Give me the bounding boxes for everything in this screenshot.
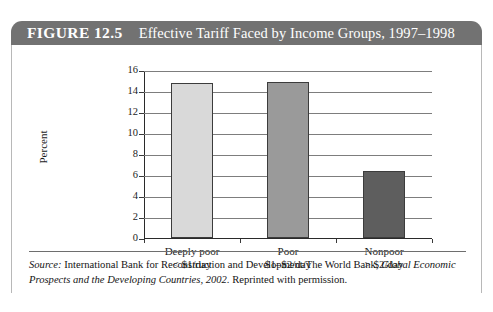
- source-note: Source: International Bank for Reconstru…: [29, 258, 469, 287]
- figure-header-banner: FIGURE 12.5 Effective Tariff Faced by In…: [11, 21, 482, 45]
- bar-chart: Percent 0246810121416 Deeply poor< $1/da…: [12, 45, 483, 250]
- y-tick-label: 10: [112, 127, 138, 138]
- source-text-after: Reprinted with permission.: [230, 274, 348, 285]
- y-tick-mark: [139, 92, 144, 93]
- figure-card: FIGURE 12.5 Effective Tariff Faced by In…: [11, 10, 482, 305]
- y-axis-title: Percent: [37, 97, 49, 197]
- y-tick-label: 12: [112, 106, 138, 117]
- y-tick-label: 6: [112, 169, 138, 180]
- figure-body: Percent 0246810121416 Deeply poor< $1/da…: [11, 45, 482, 293]
- x-tick-mark: [432, 239, 433, 243]
- source-text-before: International Bank for Reconstruction an…: [62, 259, 382, 270]
- bar-deeply-poor: [171, 83, 213, 238]
- y-tick-label: 8: [112, 148, 138, 159]
- x-tick-mark: [240, 239, 241, 243]
- figure-number: FIGURE 12.5: [27, 24, 123, 42]
- gridline: [144, 71, 432, 72]
- source-divider: [29, 251, 466, 252]
- y-tick-mark: [139, 155, 144, 156]
- y-tick-label: 4: [112, 190, 138, 201]
- y-tick-mark: [139, 176, 144, 177]
- y-tick-label: 2: [112, 211, 138, 222]
- y-tick-label: 16: [112, 64, 138, 75]
- y-tick-mark: [139, 218, 144, 219]
- bar-nonpoor: [363, 171, 405, 238]
- x-tick-mark: [144, 239, 145, 243]
- y-tick-mark: [139, 134, 144, 135]
- plot-area: 0246810121416 Deeply poor< $1/dayPoor$1–…: [144, 71, 432, 239]
- bar-poor: [267, 82, 309, 238]
- y-tick-label: 14: [112, 85, 138, 96]
- source-label: Source:: [29, 259, 62, 270]
- y-tick-mark: [139, 113, 144, 114]
- x-axis-line: [144, 238, 432, 239]
- x-tick-mark: [336, 239, 337, 243]
- figure-header-text: FIGURE 12.5 Effective Tariff Faced by In…: [11, 24, 455, 42]
- figure-title: Effective Tariff Faced by Income Groups,…: [139, 25, 455, 42]
- y-tick-label: 0: [112, 232, 138, 243]
- y-tick-mark: [139, 197, 144, 198]
- y-tick-mark: [139, 71, 144, 72]
